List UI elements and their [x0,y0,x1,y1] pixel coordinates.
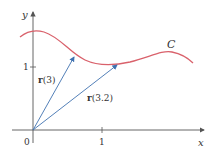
x-tick-label: 1 [99,137,105,147]
curve-label: C [167,38,176,51]
vector-r3-label: r(3) [38,75,56,85]
y-tick-label: 1 [23,62,29,72]
x-axis-label: x [198,137,204,148]
y-axis-label: y [21,9,28,20]
vector-function-diagram: y x 0 1 1 C r(3) r(3.2) [0,0,211,155]
origin-label: 0 [24,137,30,147]
vector-r3 [33,57,74,130]
vector-r3-2-label: r(3.2) [87,93,113,103]
